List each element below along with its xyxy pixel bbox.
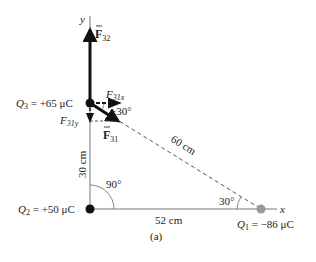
f31-angle-label: +30° bbox=[110, 105, 132, 117]
f31y-label: F31y bbox=[59, 114, 79, 128]
f32-label: F32 bbox=[95, 27, 110, 43]
q1-angle-arc bbox=[237, 197, 241, 209]
q1-angle-label: 30° bbox=[219, 195, 234, 207]
f31-angle-arc bbox=[102, 103, 104, 110]
q1-label: Q1 = −86 μC bbox=[237, 218, 294, 232]
figure-caption: (a) bbox=[150, 230, 163, 243]
f31x-label: F31x bbox=[105, 88, 125, 102]
q2-charge-dot bbox=[86, 205, 95, 214]
x-axis-label: x bbox=[279, 203, 285, 215]
q3-label: Q3 = +65 μC bbox=[16, 97, 73, 111]
f31-label: F31 bbox=[103, 128, 118, 144]
y-axis-label: y bbox=[79, 13, 85, 25]
vertical-distance-label: 30 cm bbox=[76, 150, 88, 178]
q3-charge-dot bbox=[86, 99, 95, 108]
diagonal-distance-label: 60 cm bbox=[169, 133, 199, 158]
q2-label: Q2 = +50 μC bbox=[18, 203, 75, 217]
horizontal-distance-label: 52 cm bbox=[155, 214, 183, 226]
q1-charge-dot bbox=[257, 205, 266, 214]
coulomb-force-diagram: x y 60 cm F32 F31 F31x F31y +30° 90° 30°… bbox=[0, 0, 316, 262]
right-angle-label: 90° bbox=[106, 178, 121, 190]
